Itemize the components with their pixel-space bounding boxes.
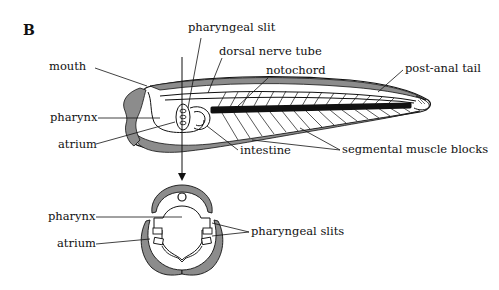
label-pharyngeal-slit: pharyngeal slit xyxy=(188,20,276,34)
lancelet-diagram: B xyxy=(0,0,499,290)
label-atrium: atrium xyxy=(58,137,97,151)
cross-section xyxy=(141,185,223,275)
label-xs-atrium: atrium xyxy=(57,236,96,250)
label-dorsal-nerve-tube: dorsal nerve tube xyxy=(219,44,322,58)
label-xs-pharynx: pharynx xyxy=(48,209,96,223)
label-pharynx: pharynx xyxy=(50,110,98,124)
label-mouth: mouth xyxy=(49,59,87,73)
label-xs-pharyngeal-slits: pharyngeal slits xyxy=(251,224,344,238)
label-segmental-muscle-blocks: segmental muscle blocks xyxy=(342,142,488,156)
label-post-anal-tail: post-anal tail xyxy=(405,61,481,75)
side-view-body xyxy=(124,77,431,153)
label-notochord: notochord xyxy=(266,63,326,77)
label-intestine: intestine xyxy=(240,143,291,157)
panel-label: B xyxy=(23,22,35,38)
